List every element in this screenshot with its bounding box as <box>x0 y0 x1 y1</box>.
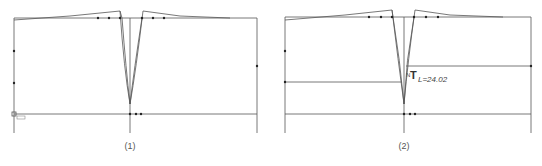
length-label: L=24.02 <box>418 75 448 84</box>
measure-annotation: N T L=24.02 <box>406 69 448 84</box>
pattern-drawing-2: N T L=24.02 <box>0 0 542 166</box>
panel-2: N T L=24.02 (2) <box>0 0 542 166</box>
tool-t-icon: T <box>410 69 417 81</box>
caption-2: (2) <box>384 141 424 151</box>
